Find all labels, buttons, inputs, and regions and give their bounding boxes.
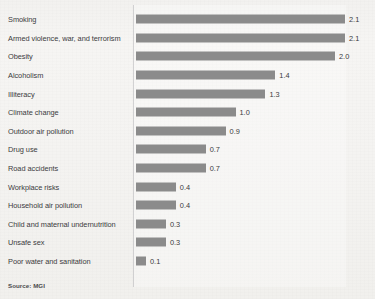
bar: [136, 257, 146, 266]
bar: [136, 126, 226, 135]
bar: [136, 182, 176, 191]
bar-category-label: Outdoor air pollution: [8, 126, 74, 135]
bar-row: Smoking2.1: [0, 10, 375, 29]
bar-row: Drug use0.7: [0, 140, 375, 159]
bar-and-value: 2.0: [136, 52, 349, 61]
bar-and-value: 0.9: [136, 126, 240, 135]
bar: [136, 145, 206, 154]
bar-value-label: 0.4: [180, 182, 190, 191]
bar-row: Armed violence, war, and terrorism2.1: [0, 29, 375, 48]
bar-rows: Smoking2.1Armed violence, war, and terro…: [0, 10, 375, 270]
bar-value-label: 2.0: [339, 52, 349, 61]
bar-value-label: 0.7: [210, 164, 220, 173]
bar-row: Child and maternal undernutrition0.3: [0, 215, 375, 234]
bar-value-label: 1.0: [240, 108, 250, 117]
bar-and-value: 0.7: [136, 164, 220, 173]
bar-value-label: 1.3: [269, 89, 279, 98]
bar: [136, 201, 176, 210]
bar-value-label: 0.1: [150, 257, 160, 266]
bar: [136, 52, 335, 61]
bar-value-label: 0.3: [170, 238, 180, 247]
bar-and-value: 2.1: [136, 15, 359, 24]
bar-value-label: 0.4: [180, 201, 190, 210]
bar-value-label: 1.4: [279, 71, 289, 80]
bar-and-value: 0.4: [136, 182, 190, 191]
bar: [136, 33, 345, 42]
bar-row: Workplace risks0.4: [0, 177, 375, 196]
bar-category-label: Child and maternal undernutrition: [8, 219, 116, 228]
source-note: Source: MGI: [8, 282, 45, 289]
bar-and-value: 1.0: [136, 108, 250, 117]
bar-and-value: 0.4: [136, 201, 190, 210]
bar: [136, 15, 345, 24]
bar-and-value: 0.1: [136, 257, 160, 266]
bar-value-label: 0.7: [210, 145, 220, 154]
bar: [136, 108, 236, 117]
bar-category-label: Poor water and sanitation: [8, 257, 91, 266]
bar-and-value: 0.3: [136, 238, 180, 247]
bar-and-value: 2.1: [136, 33, 359, 42]
bar-row: Unsafe sex0.3: [0, 233, 375, 252]
bar-category-label: Alcoholism: [8, 71, 43, 80]
bar-value-label: 2.1: [349, 33, 359, 42]
bar: [136, 89, 265, 98]
bar-row: Climate change1.0: [0, 103, 375, 122]
bar: [136, 219, 166, 228]
chart-page: Smoking2.1Armed violence, war, and terro…: [0, 0, 375, 299]
bar: [136, 164, 206, 173]
bar-value-label: 0.9: [230, 126, 240, 135]
bar-row: Poor water and sanitation0.1: [0, 252, 375, 271]
bar-and-value: 0.7: [136, 145, 220, 154]
bar-row: Illiteracy1.3: [0, 84, 375, 103]
bar-category-label: Climate change: [8, 108, 59, 117]
bar-category-label: Workplace risks: [8, 182, 59, 191]
bar: [136, 71, 275, 80]
bar-category-label: Armed violence, war, and terrorism: [8, 33, 121, 42]
bar-row: Obesity2.0: [0, 47, 375, 66]
bar-category-label: Unsafe sex: [8, 238, 44, 247]
bar-category-label: Obesity: [8, 52, 33, 61]
bar-and-value: 1.3: [136, 89, 280, 98]
bar-category-label: Illiteracy: [8, 89, 35, 98]
bar-row: Outdoor air pollution0.9: [0, 122, 375, 141]
bar-and-value: 1.4: [136, 71, 290, 80]
bar-row: Road accidents0.7: [0, 159, 375, 178]
bar-value-label: 0.3: [170, 219, 180, 228]
bar-value-label: 2.1: [349, 15, 359, 24]
bar-category-label: Household air pollution: [8, 201, 82, 210]
bar-category-label: Drug use: [8, 145, 38, 154]
bar-category-label: Smoking: [8, 15, 36, 24]
bar-and-value: 0.3: [136, 219, 180, 228]
bar-category-label: Road accidents: [8, 164, 58, 173]
bar-row: Household air pollution0.4: [0, 196, 375, 215]
bar: [136, 238, 166, 247]
bar-row: Alcoholism1.4: [0, 66, 375, 85]
